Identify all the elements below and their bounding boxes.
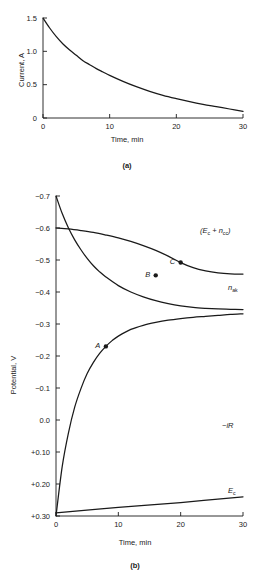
y-tick-label: 1.5 [27, 14, 37, 23]
panel-b-x-axis-title: Time, min [119, 538, 152, 547]
x-tick-label: 0 [54, 520, 58, 529]
panel-b-chart: 0102030 −0.7−0.6−0.5−0.4−0.3−0.2−0.10.0+… [9, 192, 247, 570]
curve-label-ec-plus-ncc: (Ec + ncc) [200, 226, 231, 236]
data-point-label-B: B [145, 270, 150, 279]
curve-label-minus-ir: −iR [222, 421, 234, 430]
x-tick-label: 20 [172, 122, 180, 131]
data-point-marker-C [178, 260, 182, 264]
x-tick-label: 20 [176, 520, 184, 529]
y-tick-label: +0.30 [31, 512, 50, 521]
panel-b-y-axis-title: Potential, V [9, 356, 18, 394]
y-tick-label: 0.5 [27, 80, 37, 89]
y-tick-label: 1.0 [27, 47, 37, 56]
panel-a-y-tick-labels: 00.51.01.5 [27, 14, 37, 123]
panel-a-curves [43, 18, 243, 111]
panel-b-y-tick-labels: −0.7−0.6−0.5−0.4−0.3−0.2−0.10.0+0.10+0.2… [31, 192, 50, 521]
panel-a-y-axis-title: Current, A [17, 53, 26, 87]
panel-a-axes [43, 18, 243, 118]
y-tick-label: −0.1 [35, 384, 50, 393]
y-tick-label: +0.10 [31, 448, 50, 457]
panel-b-tick-marks [56, 196, 243, 516]
panel-b-axis-lines [56, 196, 243, 516]
curve-current [43, 18, 243, 111]
curve-minus_iR [56, 314, 243, 516]
data-point-label-A: A [94, 341, 100, 350]
x-tick-label: 10 [114, 520, 122, 529]
x-tick-label: 30 [239, 122, 247, 131]
y-tick-label: −0.2 [35, 352, 50, 361]
panel-a-chart: 0102030 00.51.01.5 Time, min Current, A … [17, 14, 247, 170]
x-tick-label: 30 [239, 520, 247, 529]
panel-b-curves [56, 196, 243, 516]
data-point-marker-A [104, 344, 108, 348]
y-tick-label: −0.3 [35, 320, 50, 329]
y-tick-label: 0 [33, 114, 37, 123]
curve-n_ak [56, 196, 243, 310]
panel-a-x-axis-title: Time, min [111, 135, 144, 144]
y-tick-label: −0.6 [35, 224, 50, 233]
x-tick-label: 0 [41, 122, 45, 131]
y-tick-label: +0.20 [31, 480, 50, 489]
panel-a-tick-marks [43, 18, 243, 118]
panel-a-caption: (a) [122, 161, 132, 170]
curve-label-ec: Ec [228, 486, 236, 496]
panel-b-axes [56, 196, 243, 516]
x-tick-label: 10 [105, 122, 113, 131]
y-tick-label: −0.7 [35, 192, 50, 201]
curve-label-n-ak: nak [228, 283, 238, 293]
data-point-marker-B [154, 273, 158, 277]
y-tick-label: −0.5 [35, 256, 50, 265]
panel-b-caption: (b) [130, 561, 140, 570]
panel-b-x-tick-labels: 0102030 [54, 520, 247, 529]
panel-a-x-tick-labels: 0102030 [41, 122, 247, 131]
panel-a-axis-lines [43, 18, 243, 118]
figure-root: 0102030 00.51.01.5 Time, min Current, A … [0, 0, 266, 582]
curve-Ec [56, 497, 243, 513]
data-point-label-C: C [170, 257, 176, 266]
y-tick-label: −0.4 [35, 288, 50, 297]
y-tick-label: 0.0 [40, 416, 50, 425]
